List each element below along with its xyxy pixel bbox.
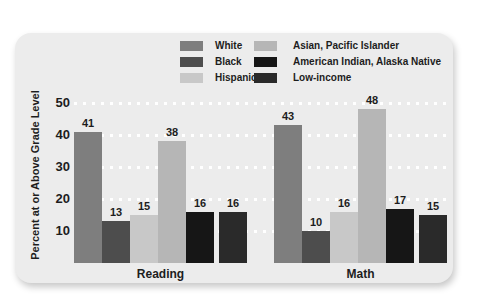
bar-value-label: 15 <box>419 199 447 213</box>
gridline <box>74 102 446 105</box>
bar <box>130 215 158 263</box>
bar <box>302 231 330 263</box>
bar <box>419 215 447 263</box>
bar-value-label: 17 <box>386 193 414 207</box>
y-tick-label: 10 <box>40 223 70 239</box>
bar <box>219 212 247 263</box>
bar-value-label: 48 <box>358 93 386 107</box>
category-label: Reading <box>74 267 247 282</box>
bar-value-label: 16 <box>330 196 358 210</box>
gridline <box>74 134 446 137</box>
bar-value-label: 10 <box>302 215 330 229</box>
bar <box>358 109 386 263</box>
y-tick-label: 20 <box>40 191 70 207</box>
bar <box>330 212 358 263</box>
y-tick-label: 50 <box>40 95 70 111</box>
chart-card: WhiteBlackHispanicAsian, Pacific Islande… <box>15 33 453 283</box>
bar <box>386 209 414 263</box>
bar-value-label: 38 <box>158 125 186 139</box>
gridline <box>74 166 446 169</box>
bar <box>74 132 102 263</box>
bar-value-label: 41 <box>74 116 102 130</box>
bar-value-label: 15 <box>130 199 158 213</box>
bar <box>158 141 186 263</box>
bar-value-label: 16 <box>219 196 247 210</box>
y-tick-label: 30 <box>40 159 70 175</box>
bar <box>186 212 214 263</box>
y-tick-label: 40 <box>40 127 70 143</box>
bar <box>274 125 302 263</box>
bar-value-label: 16 <box>186 196 214 210</box>
category-label: Math <box>274 267 447 282</box>
bar-value-label: 43 <box>274 109 302 123</box>
plot-area: 1020304050411315381616Reading43101648171… <box>15 33 453 283</box>
bar <box>102 221 130 263</box>
bar-value-label: 13 <box>102 205 130 219</box>
